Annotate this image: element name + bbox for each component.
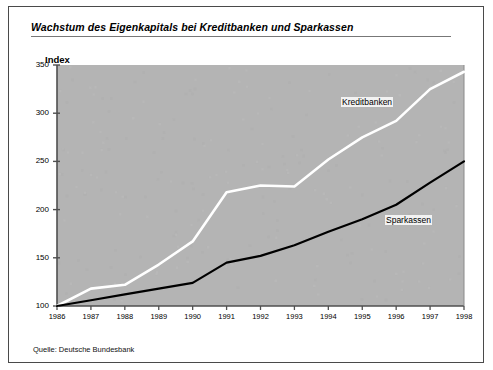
plot-texture	[452, 81, 455, 84]
plot-texture	[421, 203, 424, 206]
plot-texture	[314, 189, 317, 192]
plot-texture	[368, 224, 371, 227]
plot-texture	[249, 245, 252, 248]
plot-texture	[192, 188, 195, 191]
plot-texture	[175, 231, 178, 234]
plot-texture	[110, 97, 113, 100]
plot-texture	[114, 249, 117, 252]
plot-texture	[202, 142, 205, 145]
plot-texture	[227, 259, 230, 262]
plot-texture	[330, 202, 333, 205]
plot-texture	[122, 195, 125, 198]
plot-texture	[170, 180, 173, 183]
plot-texture	[449, 278, 452, 281]
plot-texture	[61, 173, 64, 176]
plot-texture	[349, 262, 352, 265]
plot-texture	[282, 155, 285, 158]
plot-texture	[124, 273, 127, 276]
plot-texture	[194, 88, 197, 91]
y-axis-tick-label: 100	[23, 301, 49, 310]
plot-texture	[433, 209, 436, 212]
x-axis-tick-label: 1992	[244, 312, 278, 321]
plot-texture	[186, 257, 189, 260]
plot-texture	[225, 170, 228, 173]
plot-texture	[399, 94, 402, 97]
plot-texture	[94, 86, 97, 89]
plot-texture	[132, 117, 135, 120]
plot-texture	[177, 245, 180, 248]
plot-texture	[251, 128, 254, 130]
plot-texture	[287, 172, 290, 175]
plot-texture	[446, 149, 449, 152]
plot-texture	[65, 292, 68, 295]
plot-texture	[176, 267, 179, 270]
plot-texture	[308, 90, 311, 93]
plot-texture	[376, 295, 379, 298]
plot-texture	[273, 200, 276, 203]
plot-texture	[358, 224, 361, 227]
plot-texture	[389, 180, 392, 183]
plot-texture	[102, 141, 105, 144]
x-axis-tick-label: 1995	[345, 312, 379, 321]
plot-texture	[256, 161, 259, 164]
plot-texture	[63, 219, 65, 222]
plot-area: 1001502002503003501986198719881989199019…	[9, 7, 485, 364]
plot-texture	[193, 138, 196, 141]
plot-texture	[242, 118, 245, 121]
plot-texture	[187, 261, 190, 264]
plot-texture	[283, 163, 286, 166]
plot-texture	[202, 193, 205, 196]
plot-texture	[182, 182, 185, 185]
plot-texture	[340, 239, 343, 242]
plot-texture	[66, 101, 69, 104]
plot-texture	[262, 196, 265, 199]
plot-texture	[385, 250, 388, 253]
plot-texture	[440, 125, 443, 128]
plot-texture	[270, 108, 273, 111]
plot-texture	[395, 273, 398, 276]
plot-texture	[92, 93, 95, 96]
plot-texture	[432, 230, 435, 233]
plot-texture	[267, 236, 270, 239]
plot-texture	[303, 155, 306, 158]
plot-texture	[162, 137, 165, 140]
plot-texture	[444, 127, 447, 130]
x-axis-tick-label: 1997	[413, 312, 447, 321]
plot-texture	[327, 169, 330, 172]
plot-texture	[385, 299, 388, 302]
plot-texture	[227, 181, 230, 184]
plot-texture	[62, 149, 65, 152]
plot-texture	[275, 237, 278, 240]
plot-texture	[406, 180, 409, 183]
plot-texture	[119, 213, 122, 216]
plot-texture	[427, 79, 430, 82]
plot-texture	[335, 164, 338, 167]
x-axis-tick-label: 1993	[277, 312, 311, 321]
plot-texture	[238, 81, 241, 84]
plot-texture	[402, 270, 405, 273]
plot-texture	[142, 101, 145, 104]
plot-texture	[144, 196, 147, 199]
plot-texture	[443, 150, 446, 153]
plot-texture	[99, 131, 102, 134]
plot-texture	[191, 182, 194, 185]
plot-texture	[157, 178, 160, 181]
plot-texture	[418, 280, 421, 283]
x-axis-tick-label: 1991	[210, 312, 244, 321]
plot-texture	[424, 96, 427, 99]
plot-texture	[173, 119, 176, 122]
plot-texture	[455, 205, 458, 208]
plot-texture	[108, 110, 111, 113]
plot-texture	[361, 298, 364, 301]
plot-texture	[458, 273, 461, 276]
plot-texture	[445, 187, 448, 190]
plot-texture	[428, 287, 431, 290]
plot-texture	[59, 90, 62, 93]
plot-texture	[86, 269, 89, 272]
plot-texture	[242, 164, 245, 167]
y-axis-tick-label: 200	[23, 205, 49, 214]
plot-texture	[124, 196, 127, 199]
plot-texture	[190, 245, 193, 248]
plot-texture	[105, 171, 108, 174]
plot-texture	[58, 262, 61, 265]
